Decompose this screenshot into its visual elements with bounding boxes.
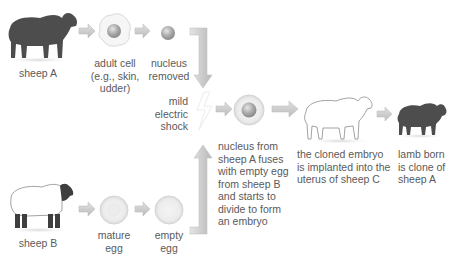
egg-icon: [100, 196, 128, 224]
fused-egg-icon: [234, 95, 264, 125]
nucleus-icon: [161, 26, 175, 40]
lightning-icon: [197, 92, 212, 130]
nucleus-removed-label: nucleus removed: [146, 57, 192, 82]
arrow-right-icon: [135, 202, 150, 216]
lamb-label: lamb born is clone of sheep A: [398, 148, 454, 186]
arrow-right-icon: [216, 102, 232, 116]
fused-cell-label: nucleus from sheep A fuses with empty eg…: [218, 140, 296, 228]
arrow-right-icon: [79, 24, 95, 38]
white-sheep-icon: [305, 97, 374, 144]
arrow-right-icon: [135, 24, 150, 38]
empty-egg-label: empty egg: [147, 229, 191, 254]
sheep-a-label: sheep A: [5, 67, 71, 80]
arrow-up-icon: [190, 145, 212, 234]
white-faced-black-sheep-icon: [4, 184, 73, 233]
cell-with-nucleus-icon: [99, 14, 130, 46]
arrow-right-icon: [272, 101, 298, 117]
electric-shock-label: mild electric shock: [140, 95, 188, 133]
arrow-right-icon: [377, 107, 392, 121]
mature-egg-label: mature egg: [92, 229, 136, 254]
empty-egg-icon: [155, 196, 183, 224]
black-sheep-icon: [4, 13, 77, 63]
arrow-down-icon: [190, 28, 212, 88]
sheep-b-label: sheep B: [5, 237, 71, 250]
arrow-right-icon: [79, 202, 95, 216]
black-lamb-icon: [394, 103, 447, 138]
adult-cell-label: adult cell (e.g., skin, udder): [90, 57, 140, 95]
sheep-c-label: the cloned embryo is implanted into the …: [297, 148, 393, 186]
